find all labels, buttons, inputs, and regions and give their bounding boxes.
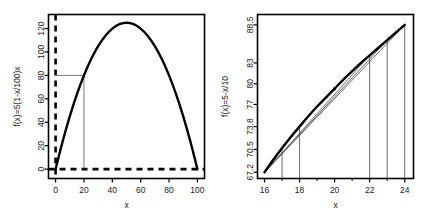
- y-tick-label: 80: [37, 70, 47, 80]
- y-tick-label: 88.5: [246, 16, 256, 33]
- x-axis-title: x: [333, 200, 338, 210]
- left-plot-svg: 020406080100020406080100120xf(x)=5(1-x/1…: [0, 0, 212, 213]
- x-tick-label: 24: [400, 185, 410, 195]
- y-tick-label: 70.5: [246, 141, 256, 158]
- plot-content: [265, 25, 405, 179]
- panel-right: 161820222467.270.573.877808388.5xf(x)=5-…: [212, 0, 424, 213]
- x-tick-label: 0: [53, 185, 58, 195]
- x-tick-label: 80: [164, 185, 174, 195]
- panel-left: 020406080100020406080100120xf(x)=5(1-x/1…: [0, 0, 212, 213]
- plot-content: [49, 15, 205, 179]
- plot-frame: [49, 15, 205, 179]
- y-tick-label: 83: [246, 58, 256, 68]
- y-tick-label: 40: [37, 117, 47, 127]
- y-axis-title: f(x)=5(1-x/100)x: [12, 66, 22, 127]
- y-tick-label: 67.2: [246, 164, 256, 181]
- figure-two-panel-plot: 020406080100020406080100120xf(x)=5(1-x/1…: [0, 0, 424, 213]
- x-tick-label: 16: [260, 185, 270, 195]
- x-tick-label: 18: [295, 185, 305, 195]
- y-axis-title: f(x)=5-x/10: [220, 76, 230, 117]
- data-curve-0: [56, 23, 198, 169]
- x-tick-label: 20: [330, 185, 340, 195]
- x-tick-label: 20: [79, 185, 89, 195]
- secant-16-to-24: [265, 25, 405, 172]
- x-tick-label: 60: [136, 185, 146, 195]
- x-axis-title: x: [124, 200, 129, 210]
- x-tick-label: 22: [365, 185, 375, 195]
- right-plot-svg: 161820222467.270.573.877808388.5xf(x)=5-…: [212, 0, 424, 213]
- x-tick-label: 40: [108, 185, 118, 195]
- x-tick-label: 100: [190, 185, 204, 195]
- y-tick-label: 20: [37, 141, 47, 151]
- y-tick-label: 77: [246, 99, 256, 109]
- y-tick-label: 120: [37, 21, 47, 35]
- y-tick-label: 80: [246, 79, 256, 89]
- y-tick-label: 60: [37, 94, 47, 104]
- y-tick-label: 0: [37, 166, 47, 171]
- y-tick-label: 73.8: [246, 118, 256, 135]
- y-tick-label: 100: [37, 45, 47, 59]
